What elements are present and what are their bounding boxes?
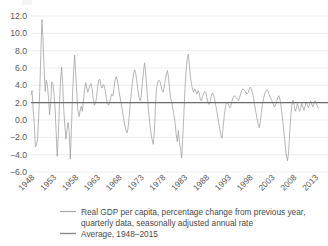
x-tick-1963: 1963 bbox=[82, 172, 102, 192]
y-tick-8.0: 8.0 bbox=[15, 46, 27, 56]
x-tick-1958: 1958 bbox=[60, 172, 80, 192]
legend-label-series-line1: Real GDP per capita, percentage change f… bbox=[81, 207, 305, 217]
y-tick-2.0: 2.0 bbox=[15, 98, 27, 108]
y-tick-10.0: 10.0 bbox=[10, 28, 27, 38]
gridlines-group bbox=[31, 16, 328, 172]
legend-label-series-line2: quarterly data, seasonally adjusted annu… bbox=[81, 218, 253, 228]
y-tick--2.0: −2.0 bbox=[10, 132, 27, 142]
x-tick-1973: 1973 bbox=[125, 172, 145, 192]
x-tick-1983: 1983 bbox=[169, 172, 189, 192]
x-tick-1968: 1968 bbox=[104, 172, 124, 192]
y-tick-0.0: 0.0 bbox=[15, 115, 27, 125]
chart-legend: Real GDP per capita, percentage change f… bbox=[60, 207, 305, 239]
legend-label-average: Average, 1948–2015 bbox=[81, 229, 158, 239]
chart-canvas: 12.010.08.06.04.02.00.0−2.0−4.0−6.0 1948… bbox=[0, 0, 328, 246]
real-gdp-per-capita-series bbox=[31, 19, 318, 160]
x-tick-2013: 2013 bbox=[300, 172, 320, 192]
x-tick-1988: 1988 bbox=[191, 172, 211, 192]
y-tick-12.0: 12.0 bbox=[10, 11, 27, 21]
y-tick-6.0: 6.0 bbox=[15, 63, 27, 73]
y-tick--4.0: −4.0 bbox=[10, 150, 27, 160]
x-tick-1993: 1993 bbox=[213, 172, 233, 192]
x-tick-2008: 2008 bbox=[278, 172, 298, 192]
y-axis-tick-labels: 12.010.08.06.04.02.00.0−2.0−4.0−6.0 bbox=[10, 11, 27, 177]
x-tick-1998: 1998 bbox=[235, 172, 255, 192]
y-tick-4.0: 4.0 bbox=[15, 80, 27, 90]
x-tick-1953: 1953 bbox=[38, 172, 58, 192]
x-tick-1978: 1978 bbox=[147, 172, 167, 192]
x-axis-tick-labels: 1948195319581963196819731978198319881993… bbox=[16, 172, 320, 192]
y-tick--6.0: −6.0 bbox=[10, 167, 27, 177]
gdp-per-capita-chart: 12.010.08.06.04.02.00.0−2.0−4.0−6.0 1948… bbox=[0, 0, 328, 246]
x-tick-2003: 2003 bbox=[256, 172, 276, 192]
